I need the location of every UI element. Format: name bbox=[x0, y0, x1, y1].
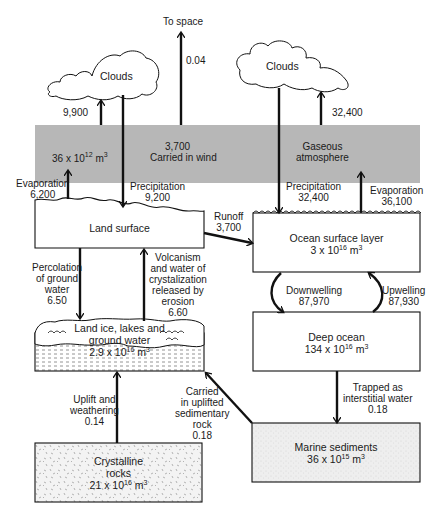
atmosphere-label-line2: atmosphere bbox=[296, 152, 349, 163]
to-space-label: To space bbox=[163, 16, 203, 27]
trapped-label: Trapped as interstitial water 0.18 bbox=[343, 382, 412, 415]
volcanism-label: Volcanism and water of crystalization re… bbox=[149, 252, 207, 318]
atmosphere-label: Gaseous atmosphere bbox=[296, 141, 349, 163]
sedimentary-label: Carried in uplifted sedimentary rock 0.1… bbox=[175, 386, 229, 441]
percolation-label: Percolation of ground water 6.50 bbox=[32, 262, 82, 306]
land-precipitation-label: Precipitation 9,200 bbox=[130, 181, 185, 203]
arrow-downwelling bbox=[271, 273, 283, 312]
wind-label: Carried in wind bbox=[150, 152, 217, 163]
downwelling-label: Downwelling 87,970 bbox=[286, 285, 342, 307]
atmosphere-volume: 36 x 1012 m3 bbox=[52, 153, 108, 164]
atmosphere-label-line1: Gaseous bbox=[296, 141, 349, 152]
land-evaporation-label: Evaporation 6,200 bbox=[16, 178, 69, 200]
upwelling-label: Upwelling 87,930 bbox=[382, 285, 425, 307]
land-surface-label: Land surface bbox=[35, 222, 204, 234]
flow-value-32400: 32,400 bbox=[332, 107, 363, 118]
marine-sediments-label: Marine sediments 36 x 1015 m3 bbox=[252, 441, 420, 465]
flow-value-9900: 9,900 bbox=[63, 107, 88, 118]
ocean-precipitation-label: Precipitation 32,400 bbox=[286, 181, 341, 203]
ocean-surface-label: Ocean surface layer 3 x 1016 m3 bbox=[253, 232, 420, 256]
uplift-label: Uplift and weathering 0.14 bbox=[70, 394, 119, 427]
ocean-evaporation-label: Evaporation 36,100 bbox=[370, 185, 423, 207]
runoff-label: Runoff 3,700 bbox=[214, 211, 243, 233]
cloud-left-label: Clouds bbox=[100, 71, 133, 82]
deep-ocean-label: Deep ocean 134 x 1016 m3 bbox=[253, 331, 420, 355]
crystalline-rocks-label: Crystalline rocks 21 x 1016 m3 bbox=[35, 455, 202, 491]
cloud-right-label: Clouds bbox=[266, 61, 299, 72]
flow-value-to-space: 0.04 bbox=[186, 55, 205, 66]
arrow-runoff bbox=[204, 233, 252, 243]
wind-value: 3,700 bbox=[165, 141, 190, 152]
arrow-upwelling bbox=[369, 273, 382, 312]
land-ice-label: Land ice, lakes and ground water 2.9 x 1… bbox=[35, 322, 204, 358]
